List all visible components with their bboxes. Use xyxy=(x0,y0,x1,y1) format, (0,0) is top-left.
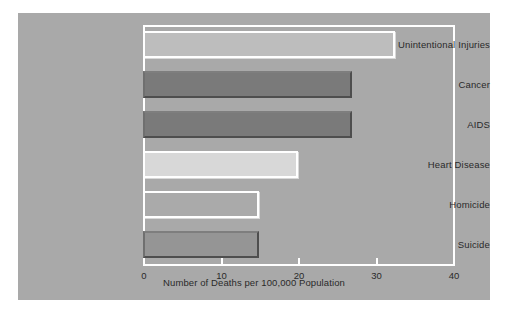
plot-area: 010203040 xyxy=(143,25,455,265)
bar xyxy=(143,191,259,218)
category-label: AIDS xyxy=(370,119,490,130)
x-tick-mark xyxy=(221,258,223,265)
x-tick-mark xyxy=(298,258,300,265)
chart-figure: 010203040 Unintentional InjuriesCancerAI… xyxy=(18,13,490,300)
category-label: Heart Disease xyxy=(370,159,490,170)
x-tick-mark xyxy=(376,258,378,265)
bar xyxy=(143,111,352,138)
category-label: Homicide xyxy=(370,199,490,210)
bar xyxy=(143,151,298,178)
bar xyxy=(143,71,352,98)
bar xyxy=(143,231,259,258)
x-tick-mark xyxy=(453,258,455,265)
bar xyxy=(143,31,395,58)
category-label: Unintentional Injuries xyxy=(370,39,490,50)
category-label: Cancer xyxy=(370,79,490,90)
x-axis-label: Number of Deaths per 100,000 Population xyxy=(18,277,490,288)
category-label: Suicide xyxy=(370,239,490,250)
x-tick-mark xyxy=(143,258,145,265)
